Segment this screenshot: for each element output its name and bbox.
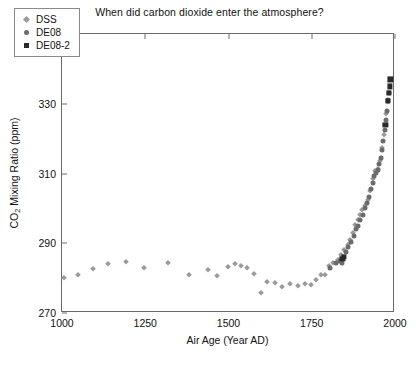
data-point-dss <box>204 267 210 273</box>
y-axis-tick-label: 330 <box>22 98 62 110</box>
y-axis-tick-mark <box>62 173 67 174</box>
x-axis-tick-mark <box>311 34 312 39</box>
chart-legend: DSSDE08DE08-2 <box>14 8 80 57</box>
data-point-de08 <box>382 127 387 132</box>
data-point-de08 <box>360 212 365 217</box>
data-point-dss <box>313 277 319 283</box>
data-point-dss <box>75 272 81 278</box>
data-point-de08-2 <box>386 91 391 96</box>
data-point-dss <box>122 259 128 265</box>
y-axis-label-text: CO2 Mixing Ratio (ppm) <box>8 117 20 228</box>
data-point-de08 <box>380 148 385 153</box>
data-point-de08 <box>328 265 333 270</box>
x-axis-tick-mark <box>145 34 146 39</box>
data-point-de08 <box>362 206 367 211</box>
legend-item-label: DE08-2 <box>36 40 70 51</box>
x-axis-label: Air Age (Year AD) <box>61 334 394 346</box>
data-point-de08 <box>364 200 369 205</box>
data-point-dss <box>287 281 293 287</box>
data-point-de08 <box>378 156 383 161</box>
data-point-dss <box>61 275 67 281</box>
data-point-dss <box>244 265 250 271</box>
legend-item-label: DE08 <box>36 27 61 38</box>
data-point-dss <box>295 283 301 289</box>
data-point-de08 <box>368 186 373 191</box>
x-axis-tick-label: 1250 <box>134 317 157 329</box>
data-point-dss <box>264 279 270 285</box>
data-points-layer <box>62 34 393 311</box>
data-point-dss <box>251 271 257 277</box>
x-axis-tick-mark <box>395 34 396 39</box>
data-point-de08 <box>358 218 363 223</box>
legend-item-dss: DSS <box>20 13 70 26</box>
data-point-de08 <box>370 180 375 185</box>
data-point-de08-2 <box>387 84 392 89</box>
data-point-dss <box>141 265 147 271</box>
legend-item-de08: DE08 <box>20 26 70 39</box>
data-point-dss <box>164 260 170 266</box>
y-axis-tick-mark <box>62 243 67 244</box>
data-point-dss <box>258 290 264 296</box>
legend-item-label: DSS <box>36 14 57 25</box>
x-axis-tick-label: 1000 <box>50 317 73 329</box>
data-point-de08-2 <box>383 122 388 127</box>
y-axis-tick-mark <box>62 313 67 314</box>
data-point-de08-2 <box>385 98 390 103</box>
y-axis-tick-mark <box>62 103 67 104</box>
data-point-de08 <box>356 223 361 228</box>
chart-figure: When did carbon dioxide enter the atmosp… <box>0 0 419 366</box>
square-marker-icon <box>20 43 33 49</box>
x-axis-tick-label: 2000 <box>383 317 406 329</box>
x-axis-tick-mark <box>228 34 229 39</box>
data-point-de08-2 <box>341 254 346 259</box>
data-point-de08 <box>346 245 351 250</box>
plot-area: 27029031033035010001250150017502000 <box>61 33 394 312</box>
data-point-de08 <box>377 162 382 167</box>
legend-item-de08-2: DE08-2 <box>20 39 70 52</box>
data-point-dss <box>213 273 219 279</box>
data-point-dss <box>224 264 230 270</box>
data-point-dss <box>302 281 308 287</box>
data-point-de08 <box>381 138 386 143</box>
data-point-de08 <box>375 168 380 173</box>
data-point-de08 <box>384 108 389 113</box>
x-axis-tick-label: 1750 <box>300 317 323 329</box>
data-point-de08 <box>366 194 371 199</box>
y-axis-label: CO2 Mixing Ratio (ppm) <box>6 33 22 312</box>
x-axis-tick-label: 1500 <box>217 317 240 329</box>
data-point-dss <box>90 266 96 272</box>
data-point-de08 <box>351 234 356 239</box>
y-axis-tick-label: 290 <box>22 237 62 249</box>
y-axis-tick-label: 310 <box>22 168 62 180</box>
diamond-marker-icon <box>20 17 33 22</box>
data-point-dss <box>322 272 328 278</box>
data-point-dss <box>105 261 111 267</box>
data-point-dss <box>185 272 191 278</box>
circle-marker-icon <box>20 30 33 36</box>
data-point-dss <box>308 282 314 288</box>
data-point-de08 <box>349 239 354 244</box>
data-point-dss <box>279 284 285 290</box>
data-point-dss <box>272 280 278 286</box>
data-point-de08-2 <box>388 77 393 82</box>
